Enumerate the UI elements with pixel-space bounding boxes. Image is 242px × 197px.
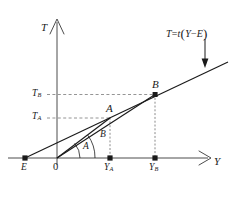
equation-label: T=t(Y−E)	[166, 26, 208, 42]
marker-YB	[152, 155, 157, 160]
marker-E	[22, 155, 27, 160]
origin-label: 0	[53, 162, 58, 173]
x-tick-label-YB: YB	[149, 163, 158, 173]
y-tick-TB-sub: B	[37, 91, 41, 98]
point-markers-group	[22, 92, 157, 161]
equation-arrow-head	[202, 59, 209, 69]
y-axis-label: T	[41, 22, 47, 33]
point-label-B: B	[152, 79, 159, 90]
angle-label-A: A	[83, 142, 89, 152]
marker-point-B	[153, 92, 158, 97]
tax-schedule-line	[25, 62, 228, 158]
tax-schedule-line-group	[25, 62, 228, 158]
x-tick-E-text: E	[21, 162, 27, 172]
x-tick-label-YA: YA	[104, 163, 113, 173]
x-tick-YA-sub: A	[109, 165, 113, 172]
marker-YA	[107, 155, 112, 160]
y-tick-label-TA: TA	[32, 112, 41, 122]
angle-label-B: B	[100, 130, 106, 140]
equation-callout-arrow	[202, 39, 209, 68]
figure-canvas: T Y 0 E YA YB TB TA A B A B T=t(Y−E)	[0, 0, 242, 197]
x-axis-label: Y	[214, 156, 220, 167]
x-tick-label-E: E	[21, 163, 27, 173]
y-tick-label-TB: TB	[32, 89, 41, 99]
y-tick-TA-sub: A	[37, 114, 41, 121]
equation-close-paren: )	[203, 26, 208, 41]
x-tick-YB-sub: B	[154, 165, 158, 172]
point-label-A: A	[106, 103, 113, 114]
